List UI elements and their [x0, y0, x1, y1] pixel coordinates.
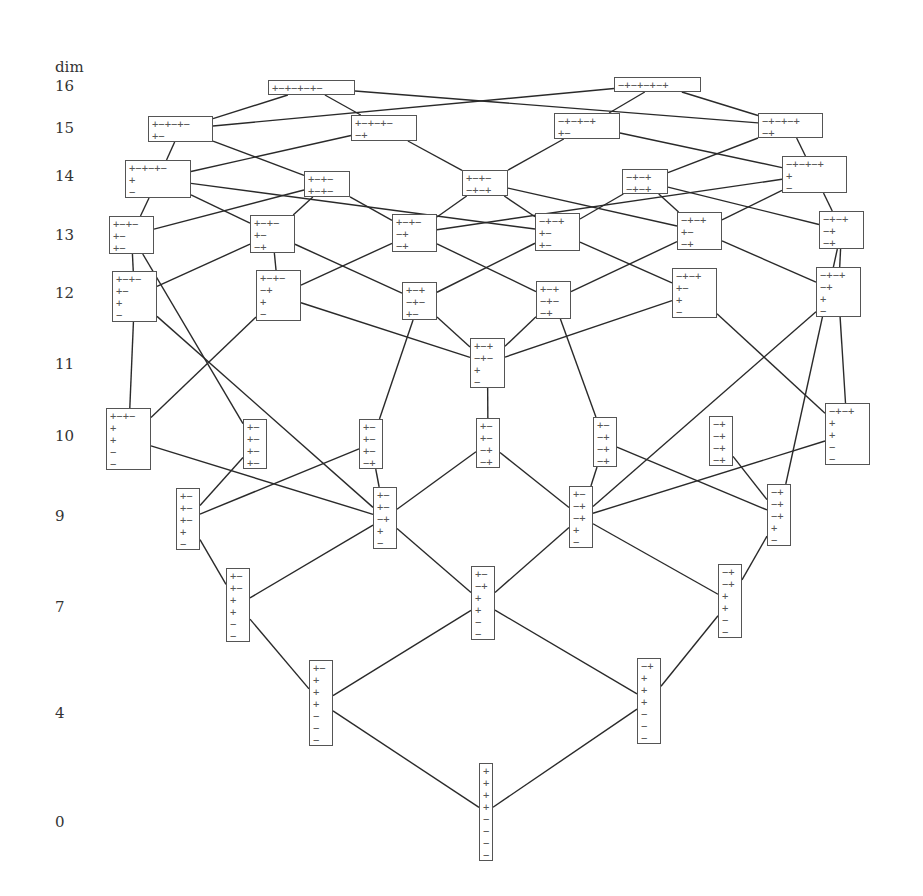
- sign-pattern-node: −+−++−+−: [672, 268, 717, 318]
- sign-pattern-node: +−+−+−+−: [176, 488, 200, 550]
- sign-row: +−+−: [308, 185, 346, 197]
- dim-label: 15: [55, 119, 74, 137]
- sign-row: −+: [722, 578, 738, 590]
- sign-pattern-node: +−+−+−+−: [304, 171, 350, 197]
- lattice-edge: [824, 193, 833, 211]
- sign-pattern-node: +−+−+−+−: [470, 338, 505, 388]
- lattice-edge: [495, 610, 637, 694]
- sign-row: −+: [823, 225, 860, 237]
- sign-row: +: [230, 594, 246, 606]
- sign-row: −+: [681, 238, 718, 250]
- sign-pattern-node: +−+++−−−: [309, 660, 333, 746]
- sign-row: +−: [313, 662, 329, 674]
- sign-row: +−+: [406, 284, 433, 296]
- lattice-edge: [797, 138, 806, 156]
- sign-row: −+: [771, 510, 787, 522]
- lattice-edge: [840, 317, 845, 403]
- lattice-edge: [508, 139, 564, 170]
- sign-row: +−+−: [396, 216, 433, 228]
- lattice-edge: [742, 536, 767, 580]
- lattice-edge: [379, 320, 413, 419]
- lattice-edge: [213, 141, 304, 175]
- sign-pattern-node: +−+−+−+−: [109, 216, 154, 254]
- lattice-edge: [333, 711, 479, 807]
- sign-pattern-node: +−+−+−−+: [250, 215, 295, 253]
- sign-row: +−: [597, 419, 613, 431]
- sign-row: +−: [539, 227, 576, 239]
- lattice-edge: [500, 453, 569, 508]
- dim-label: 11: [55, 355, 74, 373]
- sign-row: −+−+: [539, 215, 576, 227]
- sign-row: −+: [722, 566, 738, 578]
- sign-row: −+: [597, 443, 613, 455]
- dim-label: 13: [55, 226, 74, 244]
- sign-row: +: [475, 604, 491, 616]
- sign-row: +: [771, 522, 787, 534]
- sign-row: −+: [771, 498, 787, 510]
- lattice-edge: [504, 196, 535, 217]
- sign-pattern-node: −+−+−+−+: [758, 113, 823, 138]
- sign-row: −+−+: [681, 214, 718, 226]
- lattice-edge: [437, 317, 470, 347]
- sign-row: +: [110, 422, 147, 434]
- lattice-edge: [376, 469, 379, 487]
- lattice-edge: [682, 92, 758, 115]
- sign-row: −: [110, 446, 147, 458]
- sign-row: −+: [363, 457, 379, 469]
- sign-row: −+−: [406, 296, 433, 308]
- sign-pattern-node: −+−++−+−: [535, 213, 580, 251]
- sign-row: −: [483, 849, 489, 861]
- sign-row: −: [313, 722, 329, 734]
- sign-row: −: [676, 306, 713, 318]
- lattice-edge: [191, 135, 351, 171]
- sign-pattern-node: −+−+−++−: [816, 267, 861, 317]
- sign-pattern-node: −+−+++−−: [825, 403, 870, 465]
- sign-row: −+: [713, 454, 729, 466]
- sign-row: +−: [113, 242, 150, 254]
- sign-row: +−: [230, 582, 246, 594]
- sign-row: +−: [230, 570, 246, 582]
- sign-row: +−+−+−: [355, 117, 413, 129]
- sign-row: +−: [681, 226, 718, 238]
- sign-row: +: [260, 296, 297, 308]
- lattice-edge: [333, 610, 471, 695]
- sign-row: +: [230, 606, 246, 618]
- sign-pattern-node: +−+−+−+−: [243, 419, 267, 469]
- sign-row: −+: [355, 129, 413, 141]
- sign-row: +−: [254, 229, 291, 241]
- sign-row: −+−+−+: [786, 158, 843, 170]
- lattice-edge: [157, 316, 373, 507]
- sign-row: −: [641, 720, 657, 732]
- lattice-edge: [200, 540, 226, 585]
- sign-row: +−: [152, 130, 209, 142]
- lattice-edge: [250, 525, 373, 598]
- sign-row: −+: [713, 418, 729, 430]
- sign-row: −: [483, 813, 489, 825]
- lattice-edge: [722, 241, 816, 282]
- sign-row: +: [641, 684, 657, 696]
- sign-row: −: [475, 628, 491, 640]
- sign-row: −: [820, 305, 857, 317]
- sign-row: −+: [396, 240, 433, 252]
- sign-pattern-lattice-diagram: dim 161514131211109740 +−+−+−+−−+−+−+−++…: [0, 0, 923, 896]
- sign-row: −+−+−+: [762, 115, 819, 127]
- sign-row: +−+: [474, 340, 501, 352]
- sign-row: +: [786, 170, 843, 182]
- lattice-edge: [722, 190, 782, 219]
- lattice-edge: [609, 92, 645, 113]
- sign-pattern-node: +−+−+−+−: [148, 116, 213, 142]
- lattice-edge: [140, 198, 149, 216]
- sign-row: +: [313, 698, 329, 710]
- sign-row: +−: [480, 432, 496, 444]
- sign-pattern-node: +−+−+−−+: [359, 419, 383, 469]
- sign-pattern-node: +−+−−+−+: [462, 170, 508, 196]
- sign-row: −+: [597, 431, 613, 443]
- sign-row: −+: [823, 237, 860, 249]
- sign-row: −: [771, 534, 787, 546]
- sign-row: +−+−+−: [129, 162, 187, 174]
- sign-row: +−: [363, 445, 379, 457]
- lattice-edge: [591, 467, 597, 486]
- sign-row: +: [641, 672, 657, 684]
- sign-row: −: [483, 825, 489, 837]
- sign-row: −+: [540, 307, 567, 319]
